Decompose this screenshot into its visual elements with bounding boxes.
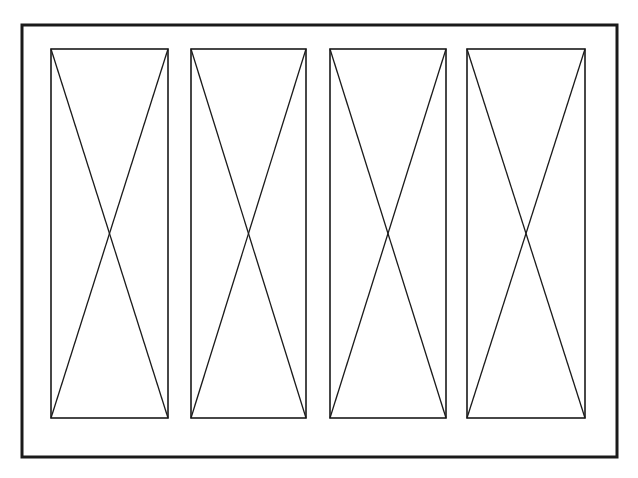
panel-3	[330, 49, 446, 418]
panel-2	[191, 49, 306, 418]
panel-4	[467, 49, 585, 418]
panel-1	[51, 49, 168, 418]
diagram-canvas	[0, 0, 638, 478]
panel-group	[51, 49, 585, 418]
